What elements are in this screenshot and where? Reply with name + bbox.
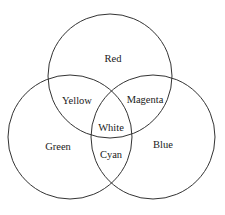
- label-white: White: [98, 122, 124, 133]
- label-blue: Blue: [153, 139, 173, 150]
- red-circle: [48, 14, 172, 138]
- venn-diagram: Red Yellow Magenta White Green Cyan Blue: [0, 0, 225, 215]
- label-red: Red: [105, 53, 123, 64]
- label-cyan: Cyan: [100, 149, 123, 160]
- label-magenta: Magenta: [127, 94, 164, 105]
- green-circle: [8, 75, 132, 199]
- label-green: Green: [45, 141, 71, 152]
- label-yellow: Yellow: [62, 95, 92, 106]
